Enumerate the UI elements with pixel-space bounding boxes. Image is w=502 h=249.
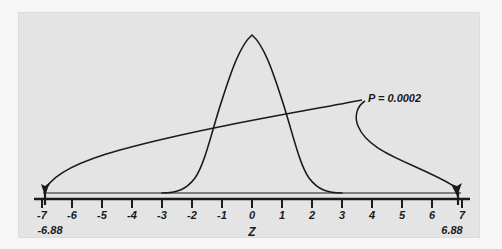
right-leader-line xyxy=(356,101,456,188)
tick-label-6: 6 xyxy=(429,209,435,221)
right-leader-arrowhead xyxy=(451,183,462,196)
probability-annotation: P = 0.0002 xyxy=(368,92,421,104)
endpoint-label-left: -6.88 xyxy=(37,224,62,236)
normal-density-curve xyxy=(162,35,342,193)
axis-title-z: Z xyxy=(248,225,255,239)
left-leader-arrowhead xyxy=(41,182,50,196)
axis-ticks xyxy=(42,199,462,208)
tick-label-5: 5 xyxy=(399,209,405,221)
normal-distribution-figure: -7 -6 -5 -4 -3 -2 -1 0 1 2 3 4 5 6 7 -6.… xyxy=(0,0,502,249)
tick-label-neg7: -7 xyxy=(37,209,47,221)
tick-label-4: 4 xyxy=(369,209,375,221)
left-leader-line xyxy=(46,100,362,188)
tick-label-7: 7 xyxy=(459,209,465,221)
tick-label-neg4: -4 xyxy=(127,209,137,221)
tick-label-2: 2 xyxy=(309,209,315,221)
tick-label-neg5: -5 xyxy=(97,209,107,221)
tick-label-0: 0 xyxy=(249,209,255,221)
tick-label-neg3: -3 xyxy=(157,209,167,221)
tick-label-neg6: -6 xyxy=(67,209,77,221)
tick-label-neg2: -2 xyxy=(187,209,197,221)
tick-label-3: 3 xyxy=(339,209,345,221)
tick-label-neg1: -1 xyxy=(217,209,227,221)
endpoint-label-right: 6.88 xyxy=(441,224,462,236)
tick-label-1: 1 xyxy=(279,209,285,221)
